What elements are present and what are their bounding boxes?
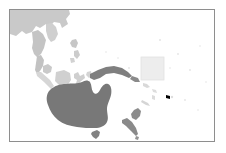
world-map-vector [10,10,214,141]
map-thumbnail-screenshot [0,0,226,153]
highlight-region-box[interactable] [141,57,164,80]
map-frame [9,9,215,142]
map-canvas[interactable] [10,10,214,141]
